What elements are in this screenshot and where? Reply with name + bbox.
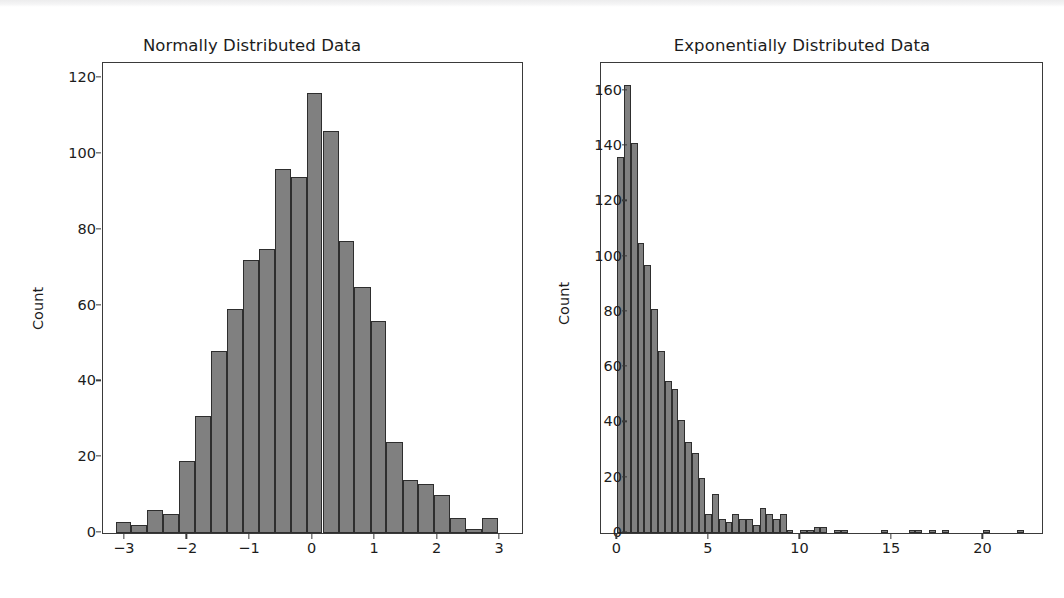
x-tick-mark: [982, 534, 983, 539]
histogram-bar: [1017, 530, 1024, 533]
histogram-bar: [746, 519, 753, 533]
x-tick-label: 1: [369, 540, 378, 556]
y-tick-label: 80: [78, 221, 96, 237]
x-tick-mark: [707, 534, 708, 539]
y-tick-label: 40: [78, 372, 96, 388]
histogram-bar: [163, 514, 179, 533]
x-tick-mark: [498, 534, 499, 539]
histogram-bar: [692, 453, 699, 533]
histogram-bar: [624, 85, 631, 533]
histogram-bar: [766, 514, 773, 533]
x-tick-mark: [436, 534, 437, 539]
y-tick-mark: [622, 531, 627, 532]
y-tick-mark: [96, 456, 101, 457]
histogram-bar: [116, 522, 132, 533]
x-tick-label: −1: [238, 540, 259, 556]
x-tick-mark: [616, 534, 617, 539]
x-tick-mark: [123, 534, 124, 539]
histogram-bar: [179, 461, 195, 533]
histogram-bar: [820, 527, 827, 533]
histogram-bar: [705, 514, 712, 533]
normal-histogram-panel: Normally Distributed Data Count 02040608…: [0, 0, 540, 598]
x-tick-mark: [890, 534, 891, 539]
histogram-bar: [712, 494, 719, 533]
y-tick-label: 100: [594, 248, 622, 264]
histogram-bar: [773, 519, 780, 533]
y-tick-label: 20: [78, 448, 96, 464]
histogram-bar: [651, 309, 658, 533]
histogram-bar: [983, 530, 990, 533]
x-tick-mark: [799, 534, 800, 539]
x-tick-label: 15: [882, 540, 900, 556]
histogram-bar: [760, 508, 767, 533]
histogram-bar: [665, 381, 672, 533]
histogram-bar: [418, 484, 434, 533]
y-tick-label: 100: [68, 145, 96, 161]
histogram-bar: [834, 530, 841, 533]
histogram-bar: [807, 530, 814, 533]
histogram-bar: [739, 519, 746, 533]
histogram-bar: [638, 243, 645, 533]
histogram-bar: [726, 522, 733, 533]
exponential-plot-area: [600, 62, 1043, 534]
histogram-bar: [631, 143, 638, 533]
normal-x-tick-group: −3−2−10123: [102, 534, 523, 564]
histogram-bar: [147, 510, 163, 533]
y-tick-label: 120: [594, 192, 622, 208]
exponential-y-tick-group: 020406080100120140160: [576, 62, 622, 534]
x-tick-label: −3: [113, 540, 134, 556]
histogram-bar: [929, 530, 936, 533]
histogram-bar: [753, 525, 760, 533]
histogram-bar: [658, 351, 665, 533]
histogram-bar: [909, 530, 916, 533]
y-tick-label: 0: [87, 524, 96, 540]
histogram-bar: [685, 442, 692, 533]
y-tick-mark: [96, 304, 101, 305]
histogram-bar: [227, 309, 243, 533]
y-tick-mark: [96, 380, 101, 381]
histogram-bar: [482, 518, 498, 533]
y-tick-label: 80: [604, 303, 622, 319]
x-tick-label: 20: [973, 540, 991, 556]
histogram-bar: [678, 420, 685, 533]
histogram-bar: [672, 389, 679, 533]
histogram-bar: [307, 93, 323, 533]
histogram-bar: [881, 530, 888, 533]
x-tick-label: 3: [494, 540, 503, 556]
y-tick-label: 60: [604, 358, 622, 374]
histogram-bar: [814, 527, 821, 533]
y-tick-mark: [622, 310, 627, 311]
histogram-bar: [259, 249, 275, 533]
x-tick-label: 5: [703, 540, 712, 556]
x-tick-mark: [311, 534, 312, 539]
y-tick-mark: [622, 89, 627, 90]
histogram-bar: [354, 287, 370, 533]
exponential-bars-group: [601, 63, 1042, 533]
histogram-bar: [644, 265, 651, 533]
y-tick-mark: [96, 228, 101, 229]
histogram-bar: [275, 169, 291, 533]
histogram-bar: [386, 442, 402, 533]
histogram-bar: [942, 530, 949, 533]
y-tick-mark: [96, 152, 101, 153]
y-tick-label: 60: [78, 297, 96, 313]
histogram-bar: [915, 530, 922, 533]
histogram-bar: [131, 525, 147, 533]
histogram-bar: [323, 131, 339, 533]
histogram-bar: [780, 514, 787, 533]
histogram-bar: [403, 480, 419, 533]
histogram-bar: [841, 530, 848, 533]
x-tick-mark: [248, 534, 249, 539]
y-tick-label: 20: [604, 469, 622, 485]
exponential-y-axis-label: Count: [556, 282, 572, 325]
x-tick-label: 0: [612, 540, 621, 556]
figure-canvas: Normally Distributed Data Count 02040608…: [0, 0, 1064, 598]
y-tick-label: 140: [594, 137, 622, 153]
histogram-bar: [719, 519, 726, 533]
y-tick-label: 120: [68, 69, 96, 85]
y-tick-mark: [622, 144, 627, 145]
histogram-bar: [466, 529, 482, 533]
x-tick-label: 0: [307, 540, 316, 556]
histogram-bar: [195, 416, 211, 534]
histogram-bar: [450, 518, 466, 533]
